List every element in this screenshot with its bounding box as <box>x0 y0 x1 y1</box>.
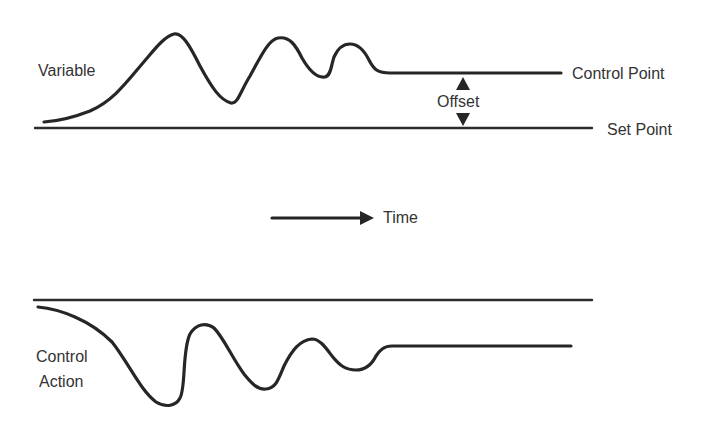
offset-up-arrow-icon <box>456 77 470 90</box>
time-arrow-icon <box>272 211 374 225</box>
offset-down-arrow-icon <box>456 113 470 126</box>
control-action-label-line2: Action <box>39 373 83 391</box>
set-point-label: Set Point <box>607 121 672 139</box>
control-point-label: Control Point <box>572 65 665 83</box>
variable-curve <box>44 34 561 122</box>
control-action-label-line1: Control <box>36 348 88 366</box>
time-label: Time <box>383 209 418 227</box>
offset-label: Offset <box>437 93 479 111</box>
variable-label: Variable <box>38 62 96 80</box>
control-action-curve <box>38 307 571 405</box>
